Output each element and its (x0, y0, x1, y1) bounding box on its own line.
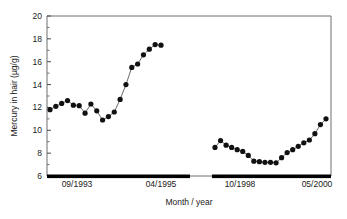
data-point-marker (123, 82, 128, 87)
x-tick-label: 05/2000 (302, 179, 333, 189)
y-tick-label: 8 (37, 148, 42, 158)
data-point-marker (77, 103, 82, 108)
data-point-marker (118, 97, 123, 102)
x-axis-title: Month / year (165, 197, 212, 207)
data-point-marker (296, 144, 301, 149)
y-tick-label: 14 (33, 80, 43, 90)
data-point-marker (158, 43, 163, 48)
data-point-marker (301, 140, 306, 145)
data-point-marker (141, 52, 146, 57)
y-axis-title: Mercury in hair (µg/g) (9, 55, 19, 136)
data-point-marker (53, 104, 58, 109)
data-point-marker (112, 109, 117, 114)
x-tick-label: 09/1993 (62, 179, 93, 189)
data-point-marker (129, 65, 134, 70)
y-tick-label: 20 (33, 11, 43, 21)
data-point-marker (106, 114, 111, 119)
y-tick-label: 18 (33, 34, 43, 44)
data-point-marker (65, 98, 70, 103)
data-point-marker (262, 160, 267, 165)
x-tick-label: 04/1995 (146, 179, 177, 189)
data-point-marker (94, 108, 99, 113)
sampling-period-bar (47, 175, 190, 179)
data-point-marker (285, 150, 290, 155)
data-point-marker (235, 147, 240, 152)
y-tick-label: 12 (33, 102, 43, 112)
data-point-marker (100, 117, 105, 122)
data-point-marker (135, 61, 140, 66)
data-point-marker (47, 107, 52, 112)
y-tick-label: 10 (33, 125, 43, 135)
data-point-marker (307, 137, 312, 142)
data-point-marker (318, 122, 323, 127)
data-point-marker (229, 145, 234, 150)
data-point-marker (59, 101, 64, 106)
y-tick-label: 6 (37, 171, 42, 181)
data-point-marker (82, 111, 87, 116)
mercury-in-hair-line-chart: 68101214161820 Mercury in hair (µg/g) 09… (0, 0, 347, 219)
data-point-marker (147, 47, 152, 52)
data-point-marker (273, 160, 278, 165)
data-point-marker (290, 147, 295, 152)
data-point-marker (71, 103, 76, 108)
chart-figure: 68101214161820 Mercury in hair (µg/g) 09… (0, 0, 347, 219)
data-point-marker (240, 149, 245, 154)
data-point-marker (212, 145, 217, 150)
data-point-marker (312, 131, 317, 136)
data-point-marker (246, 153, 251, 158)
data-point-marker (153, 42, 158, 47)
data-point-marker (218, 138, 223, 143)
data-point-marker (251, 159, 256, 164)
data-point-marker (268, 160, 273, 165)
sampling-period-bar (212, 175, 331, 179)
data-point-marker (323, 116, 328, 121)
y-tick-label: 16 (33, 57, 43, 67)
sampling-period-bars (47, 175, 331, 179)
x-tick-label: 10/1998 (225, 179, 256, 189)
data-point-marker (279, 155, 284, 160)
data-point-marker (257, 159, 262, 164)
data-point-marker (224, 143, 229, 148)
data-point-marker (88, 101, 93, 106)
